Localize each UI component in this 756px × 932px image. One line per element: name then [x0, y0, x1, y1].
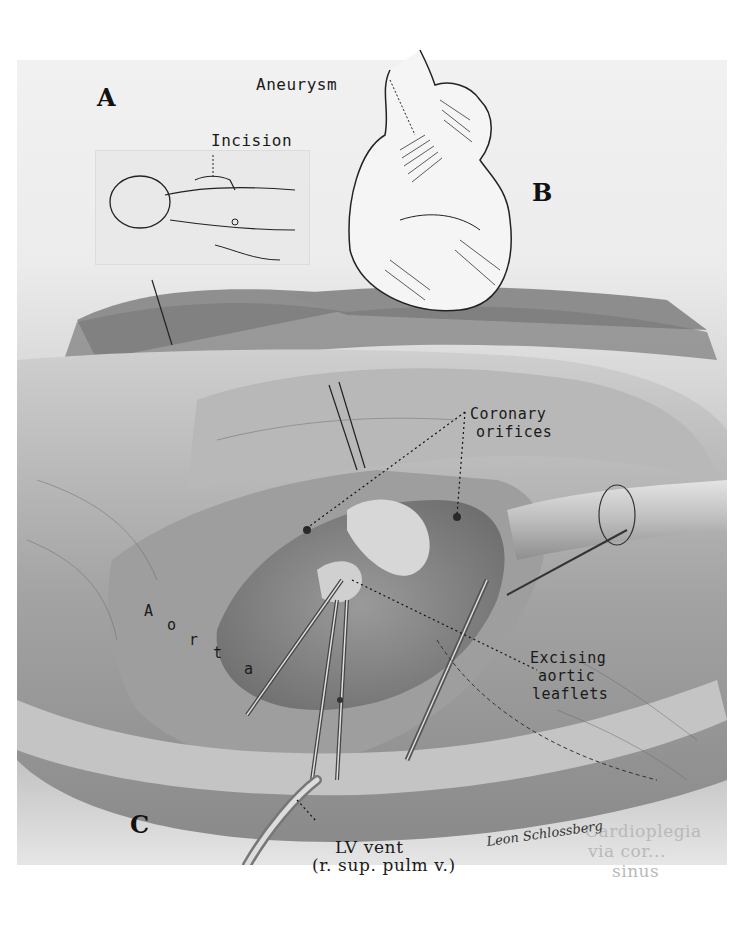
label-aorta-a2: a [244, 661, 254, 678]
patient-figure [95, 150, 310, 265]
label-cardioplegia-2: via cor... [588, 842, 666, 861]
panel-label-c: C [130, 810, 149, 839]
label-coronary-orifices-1: Coronary [470, 406, 546, 423]
label-aneurysm: Aneurysm [256, 76, 337, 93]
label-excising-3: leaflets [532, 686, 608, 703]
panel-a-inset [95, 150, 310, 265]
label-aorta-r: r [189, 632, 199, 649]
panel-label-b: B [532, 178, 552, 207]
label-incision: Incision [211, 132, 292, 149]
left-coronary-orifice [303, 526, 311, 534]
label-coronary-orifices-2: orifices [476, 424, 552, 441]
patient-head-icon [110, 176, 170, 228]
label-excising-2: aortic [538, 668, 595, 685]
label-cardioplegia-3: sinus [612, 862, 659, 881]
label-aorta-o: o [167, 617, 177, 634]
panel-b-heart [330, 40, 530, 320]
panel-label-a: A [97, 83, 116, 112]
label-aorta-a: A [144, 603, 154, 620]
label-lv-vent-2: (r. sup. pulm v.) [312, 856, 456, 875]
heart-outline-icon [349, 50, 511, 311]
right-coronary-orifice [453, 513, 461, 521]
label-excising-1: Excising [530, 650, 606, 667]
label-aorta-t: t [213, 645, 223, 662]
